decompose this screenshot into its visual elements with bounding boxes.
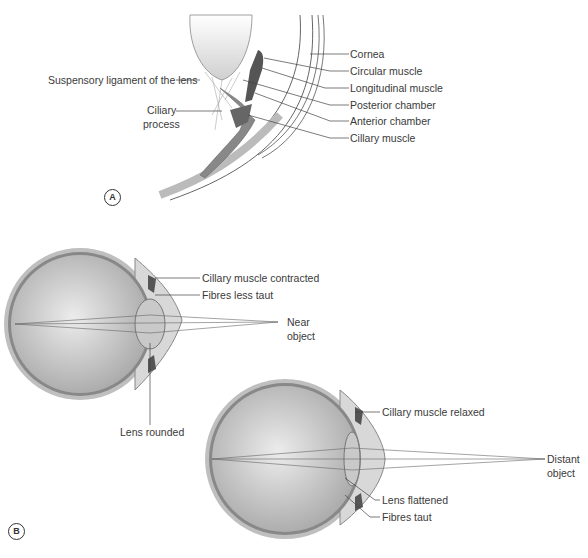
label-cornea: Cornea	[350, 48, 384, 60]
label-ciliary-muscle: Cillary muscle	[350, 132, 415, 144]
label-distant-object-1: Distant	[547, 453, 580, 465]
label-lens-flattened: Lens flattened	[382, 494, 448, 506]
label-muscle-contracted: Cillary muscle contracted	[202, 272, 319, 284]
label-lens-rounded: Lens rounded	[120, 426, 184, 438]
label-posterior-chamber: Posterior chamber	[350, 99, 436, 111]
label-muscle-relaxed: Cillary muscle relaxed	[382, 406, 485, 418]
panel-marker-b: B	[8, 523, 25, 540]
label-ciliary-process-2: process	[143, 118, 180, 130]
panel-b-distant-eye	[205, 379, 545, 539]
label-near-object-2: object	[287, 330, 315, 342]
label-fibres-taut: Fibres taut	[382, 511, 432, 523]
panel-a-ciliary-detail	[160, 15, 349, 200]
label-ciliary-process-1: Ciliary	[147, 104, 176, 116]
label-distant-object-2: object	[547, 467, 575, 479]
label-fibres-less-taut: Fibres less taut	[202, 289, 273, 301]
label-suspensory-ligament: Suspensory ligament of the lens	[48, 74, 197, 86]
label-longitudinal-muscle: Longitudinal muscle	[350, 82, 443, 94]
label-near-object-1: Near	[287, 316, 310, 328]
panel-marker-a: A	[104, 189, 121, 206]
label-anterior-chamber: Anterior chamber	[350, 115, 431, 127]
label-circular-muscle: Circular muscle	[350, 65, 422, 77]
